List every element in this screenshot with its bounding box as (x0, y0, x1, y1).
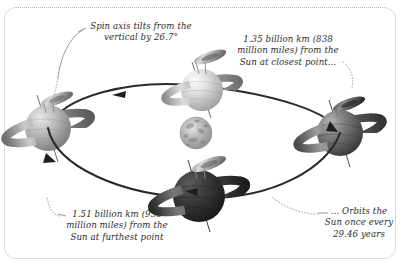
planet-right (295, 93, 385, 167)
diagram-canvas: Spin axis tilts from the vertical by 26.… (0, 0, 406, 270)
orbit-arrow-left (43, 153, 56, 163)
orbit-arrow-top (112, 91, 126, 98)
callout-orbital-period: ... Orbits the Sun once every 29.46 year… (318, 206, 400, 240)
axis-tilt-disc (192, 46, 228, 74)
planet-top (163, 46, 241, 118)
callout-closest-distance: 1.35 billion km (838 million miles) from… (233, 34, 343, 68)
leader-period (272, 197, 318, 214)
leader-tilt-solid (58, 30, 83, 78)
leader-closest-dots (343, 62, 353, 88)
leader-furthest (47, 196, 59, 216)
callout-furthest-distance: 1.51 billion km (938 million miles) from… (61, 209, 173, 243)
sun (180, 117, 212, 149)
callout-spin-axis-tilt: Spin axis tilts from the vertical by 26.… (84, 21, 198, 44)
